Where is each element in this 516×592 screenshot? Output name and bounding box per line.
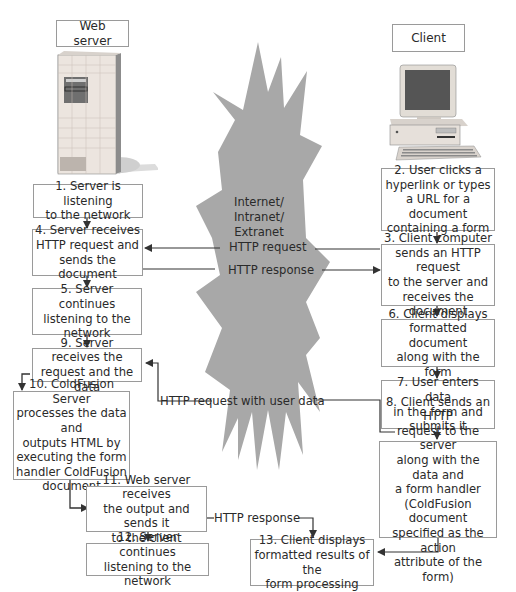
step-6-text: 6. Client displays formatted document al… <box>384 307 492 380</box>
step-11-web-server-sends-output: 11. Web server receives the output and s… <box>86 486 207 532</box>
step-1-text: 1. Server is listening to the network <box>36 179 140 223</box>
step-12-text: 12. Server continues listening to the ne… <box>89 530 206 588</box>
http-request-label: HTTP request <box>229 240 306 254</box>
client-label-text: Client <box>411 31 446 46</box>
http-response-final-label: HTTP response <box>214 511 300 525</box>
step-2-text: 2. User clicks a hyperlink or types a UR… <box>384 163 492 236</box>
step-6-client-displays-document: 6. Client displays formatted document al… <box>381 319 495 367</box>
client-computer-icon <box>390 65 481 160</box>
step-4-text: 4. Server receives HTTP request and send… <box>35 223 140 281</box>
step-8-client-sends-request-with-data: 8. Client sends an HTTP request to the s… <box>379 441 497 538</box>
step-4-server-receives-request: 4. Server receives HTTP request and send… <box>32 229 143 276</box>
step-13-text: 13. Client displays formatted results of… <box>253 533 371 591</box>
step-10-coldfusion-processes: 10. ColdFusion Server processes the data… <box>13 391 130 480</box>
step-1-server-listening: 1. Server is listening to the network <box>33 184 143 218</box>
http-request-with-user-data-label: HTTP request with user data <box>160 394 324 408</box>
step-2-user-clicks-hyperlink: 2. User clicks a hyperlink or types a UR… <box>381 168 495 231</box>
client-label: Client <box>392 24 465 52</box>
step-8-text: 8. Client sends an HTTP request to the s… <box>382 395 494 585</box>
step-5-server-continues-listening: 5. Server continues listening to the net… <box>32 288 142 335</box>
web-server-label: Web server <box>56 20 129 47</box>
step-13-client-displays-results: 13. Client displays formatted results of… <box>250 539 374 586</box>
step-5-text: 5. Server continues listening to the net… <box>35 282 139 340</box>
web-server-label-text: Web server <box>59 19 126 48</box>
step-12-server-continues-listening: 12. Server continues listening to the ne… <box>86 543 209 576</box>
network-label: Internet/ Intranet/ Extranet <box>228 195 290 240</box>
step-3-client-sends-request: 3. Client computer sends an HTTP request… <box>381 244 495 306</box>
http-response-label: HTTP response <box>228 263 314 277</box>
